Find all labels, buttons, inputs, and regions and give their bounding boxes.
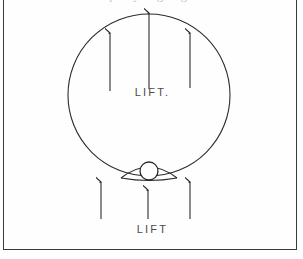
lift-label-inner: LIFT. [0,86,303,98]
lift-arrows-inner [110,13,190,91]
lift-arrows-outer [101,182,190,219]
figure-page: p y g g LIFT. LIFT [0,0,303,259]
balloon-lift-diagram [0,0,303,259]
balloon-basket-circle [140,162,158,180]
lift-label-outer: LIFT [0,223,303,235]
